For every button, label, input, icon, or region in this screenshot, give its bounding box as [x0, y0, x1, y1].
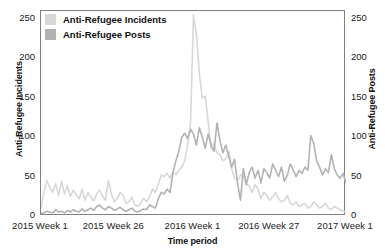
y-tick-right-50: 50	[351, 171, 381, 181]
legend-item-incidents: Anti-Refugee Incidents	[45, 14, 166, 25]
x-tick-4: 2017 Week 1	[305, 221, 385, 231]
series-line-anti-refugee-incidents	[41, 15, 346, 212]
y-tick-left-250: 250	[9, 13, 35, 23]
x-tick-3: 2016 Week 27	[229, 221, 309, 231]
chart-container: Anti-Refugee Incidents Anti-Refugee Post…	[0, 0, 385, 252]
chart-legend: Anti-Refugee Incidents Anti-Refugee Post…	[45, 14, 166, 40]
legend-item-posts: Anti-Refugee Posts	[45, 29, 166, 40]
y-tick-right-200: 200	[351, 52, 381, 62]
x-tick-2: 2016 Week 1	[153, 221, 233, 231]
plot-area	[40, 10, 345, 215]
x-tick-1: 2015 Week 26	[73, 221, 153, 231]
legend-label-posts: Anti-Refugee Posts	[63, 29, 151, 40]
legend-swatch-incidents	[45, 14, 56, 25]
y-tick-left-50: 50	[9, 171, 35, 181]
y-tick-left-0: 0	[9, 210, 35, 220]
y-tick-right-100: 100	[351, 131, 381, 141]
x-tick-0: 2015 Week 1	[0, 221, 80, 231]
x-axis-title: Time period	[0, 236, 385, 246]
y-tick-left-200: 200	[9, 52, 35, 62]
legend-label-incidents: Anti-Refugee Incidents	[63, 14, 166, 25]
legend-swatch-posts	[45, 29, 56, 40]
y-tick-right-150: 150	[351, 92, 381, 102]
y-tick-right-250: 250	[351, 13, 381, 23]
series-line-anti-refugee-posts	[41, 123, 346, 214]
y-tick-right-0: 0	[351, 210, 381, 220]
y-tick-left-150: 150	[9, 92, 35, 102]
series-lines	[41, 11, 346, 216]
y-tick-left-100: 100	[9, 131, 35, 141]
